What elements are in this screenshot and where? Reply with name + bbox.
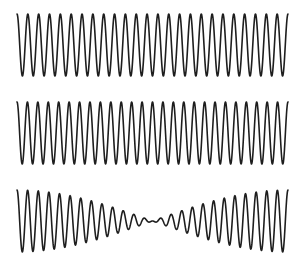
waveform-figure (0, 0, 303, 267)
beat-wave-bottom (17, 190, 288, 252)
sine-wave-top (17, 14, 288, 76)
sine-wave-middle (17, 102, 288, 164)
